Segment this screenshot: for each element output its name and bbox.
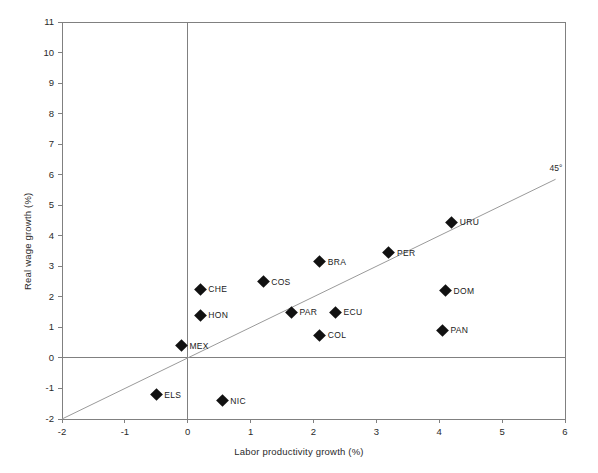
data-point-label: COS [271, 277, 290, 287]
plot-canvas [0, 0, 598, 473]
data-point-label: COL [328, 330, 346, 340]
x-tick-label: 5 [489, 426, 515, 437]
y-tick-label: -2 [28, 413, 54, 424]
x-tick-label: 4 [426, 426, 452, 437]
data-point-label: NIC [230, 396, 246, 406]
data-point-label: PAR [299, 307, 317, 317]
data-point-label: DOM [454, 286, 475, 296]
x-tick-label: 3 [363, 426, 389, 437]
forty-five-degree-line [62, 179, 556, 419]
x-axis-title: Labor productivity growth (%) [0, 446, 598, 457]
x-tick-label: -2 [49, 426, 75, 437]
y-tick-label: 1 [28, 321, 54, 332]
y-tick-label: 7 [28, 138, 54, 149]
x-tick-label: 6 [552, 426, 578, 437]
data-point-label: ELS [164, 390, 181, 400]
y-tick-label: 0 [28, 352, 54, 363]
zero-axis-lines [62, 22, 565, 419]
data-point-label: HON [208, 310, 228, 320]
y-tick-label: 9 [28, 77, 54, 88]
y-tick-label: -1 [28, 382, 54, 393]
x-tick-label: 0 [175, 426, 201, 437]
plot-frame [62, 22, 565, 419]
data-point-label: PAN [450, 325, 468, 335]
y-tick-label: 6 [28, 169, 54, 180]
data-point-label: ECU [344, 307, 363, 317]
data-point-label: CHE [208, 284, 227, 294]
y-axis-title: Real wage growth (%) [22, 193, 33, 290]
y-tick-label: 11 [28, 16, 54, 27]
y-tick-label: 2 [28, 291, 54, 302]
y-tick-label: 8 [28, 108, 54, 119]
y-tick-label: 10 [28, 47, 54, 58]
x-tick-label: -1 [112, 426, 138, 437]
data-point-label: BRA [328, 257, 346, 267]
x-tick-label: 1 [238, 426, 264, 437]
data-point-label: PER [397, 248, 415, 258]
reference-line-label: 45° [550, 163, 563, 173]
data-point-label: URU [460, 217, 479, 227]
x-tick-label: 2 [301, 426, 327, 437]
scatter-chart: CHEHONMEXELSNICCOSPARBRACOLECUPERPANDOMU… [0, 0, 598, 473]
data-point-label: MEX [189, 341, 208, 351]
tick-marks [58, 22, 565, 423]
